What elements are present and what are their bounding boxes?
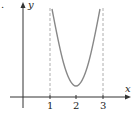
x-axis-arrow-icon <box>125 95 131 100</box>
x-tick-label-3: 3 <box>100 101 106 111</box>
x-axis-label: x <box>125 84 131 94</box>
figure-bullet: . <box>1 0 4 10</box>
x-tick-label-1: 1 <box>47 101 53 111</box>
function-curve <box>52 9 100 86</box>
graph-canvas <box>0 0 134 113</box>
y-axis-arrow-icon <box>21 2 26 8</box>
y-axis-label: y <box>28 0 34 10</box>
x-tick-label-2: 2 <box>73 101 79 111</box>
